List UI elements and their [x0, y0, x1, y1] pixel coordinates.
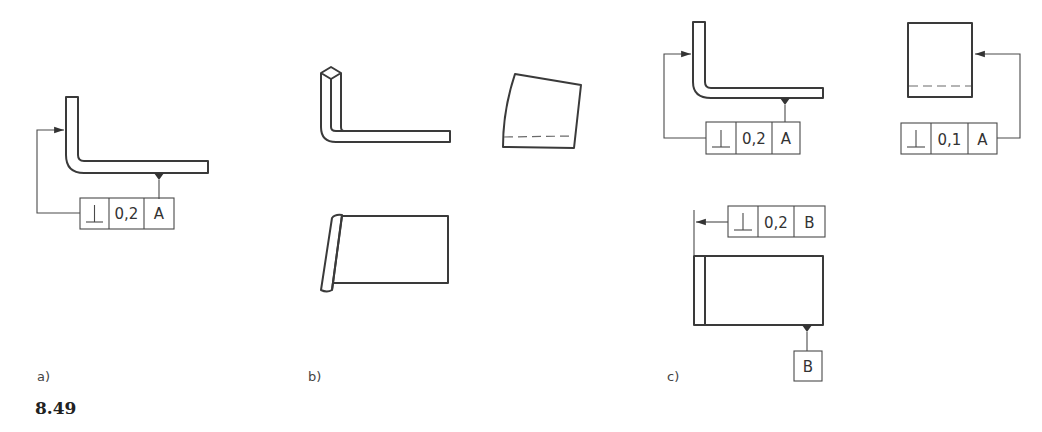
- l-bracket-part: [693, 22, 823, 98]
- datum-label: B: [803, 358, 813, 376]
- isometric-bracket: [321, 67, 450, 142]
- tolerance-value: 0,2: [115, 205, 139, 223]
- datum-reference: B: [804, 214, 814, 232]
- feature-control-frame: 0,2 B: [728, 206, 825, 237]
- datum-triangle-icon: [780, 98, 790, 105]
- perpendicularity-icon: [712, 130, 730, 147]
- deviated-profile: [503, 74, 581, 148]
- panel-label-b: b): [308, 369, 321, 384]
- feature-control-frame: 0,1 A: [901, 123, 997, 154]
- perpendicularity-icon: [86, 205, 103, 222]
- feature-control-frame: 0,2 A: [706, 122, 800, 154]
- datum-triangle-icon: [802, 325, 812, 332]
- tilted-plate: [321, 215, 448, 292]
- panel-label-c: c): [667, 369, 679, 384]
- datum-reference: A: [781, 130, 792, 148]
- tolerance-value: 0,2: [764, 214, 788, 232]
- datum-reference: A: [154, 205, 165, 223]
- l-bracket-part: [66, 97, 208, 173]
- panel-c: 0,2 A 0,1 A: [664, 22, 1020, 384]
- datum-reference: A: [977, 131, 988, 149]
- plan-view: 0,2 B B: [694, 206, 825, 381]
- perpendicularity-icon: [907, 130, 925, 147]
- perpendicularity-icon: [734, 213, 752, 230]
- panel-label-a: a): [37, 369, 50, 384]
- perpendicularity-drawing: 0,2 A a) b): [0, 0, 1042, 432]
- feature-control-frame: 0,2 A: [80, 198, 174, 229]
- figure-number: 8.49: [35, 398, 76, 418]
- tolerance-value: 0,1: [938, 131, 962, 149]
- side-view: 0,1 A: [901, 23, 1020, 154]
- panel-a: 0,2 A a): [37, 97, 208, 384]
- tolerance-value: 0,2: [742, 130, 766, 148]
- datum-triangle-icon: [154, 173, 164, 180]
- panel-b: b): [308, 67, 581, 384]
